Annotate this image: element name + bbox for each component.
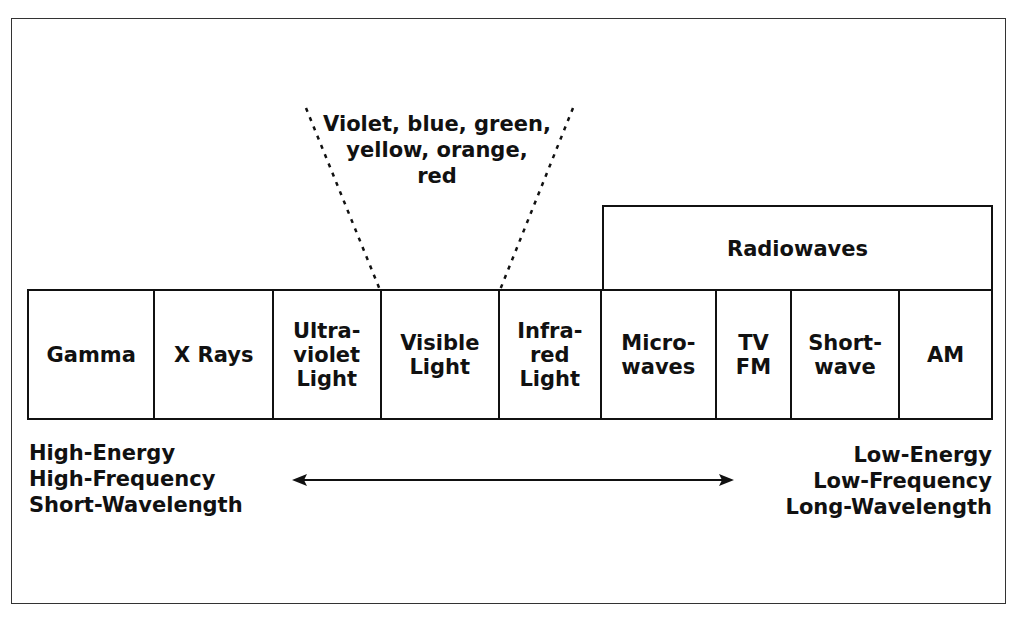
band-microwaves: Micro- waves: [602, 291, 718, 418]
band-ultraviolet: Ultra- violet Light: [274, 291, 382, 418]
low-energy-labels: Low-Energy Low-Frequency Long-Wavelength: [786, 442, 993, 520]
radiowaves-group: Radiowaves: [602, 205, 993, 291]
spectrum-band: Gamma X Rays Ultra- violet Light Visible…: [27, 289, 993, 420]
radiowaves-label: Radiowaves: [727, 237, 868, 261]
band-tv-fm: TV FM: [717, 291, 792, 418]
left-dashed-line: [306, 108, 380, 290]
band-infrared: Infra- red Light: [500, 291, 602, 418]
band-x-rays: X Rays: [155, 291, 274, 418]
band-am: AM: [900, 291, 991, 418]
band-gamma: Gamma: [29, 291, 155, 418]
high-energy-labels: High-Energy High-Frequency Short-Wavelen…: [29, 440, 243, 518]
right-dashed-line: [500, 108, 573, 290]
band-shortwave: Short- wave: [792, 291, 901, 418]
double-arrow-icon: [292, 474, 734, 486]
band-visible-light: Visible Light: [382, 291, 501, 418]
